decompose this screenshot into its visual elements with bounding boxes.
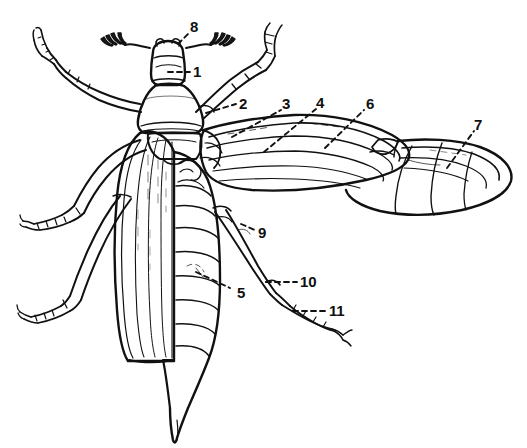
callout-label-3: 3 <box>282 96 290 111</box>
callout-label-7: 7 <box>474 117 482 132</box>
callout-label-4: 4 <box>316 95 324 110</box>
callout-label-8: 8 <box>190 19 198 34</box>
beetle-anatomy-figure: 1234567891011 <box>0 0 527 448</box>
callout-label-11: 11 <box>329 303 344 318</box>
callout-label-9: 9 <box>258 225 266 240</box>
callout-label-2: 2 <box>239 96 247 111</box>
callout-label-6: 6 <box>366 96 374 111</box>
callout-label-10: 10 <box>300 274 316 289</box>
callout-label-5: 5 <box>237 285 245 300</box>
callout-label-1: 1 <box>193 64 201 79</box>
